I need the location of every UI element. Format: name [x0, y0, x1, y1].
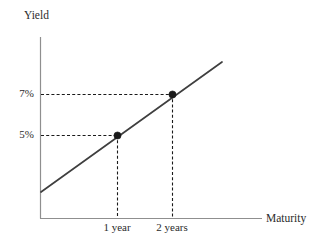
chart-background [0, 0, 326, 245]
yield-curve-chart: Yield Maturity 7% 5% 1 year 2 years [0, 0, 326, 245]
y-tick-label-5pct: 5% [0, 129, 34, 140]
y-tick-label-7pct: 7% [0, 88, 34, 99]
y-axis-title: Yield [24, 10, 49, 22]
data-point-2-years [169, 91, 176, 98]
data-point-1-year [114, 132, 121, 139]
chart-canvas [0, 0, 326, 245]
x-tick-label-2-years: 2 years [140, 222, 204, 233]
x-tick-label-1-year: 1 year [87, 222, 147, 233]
x-axis-title: Maturity [266, 213, 306, 225]
